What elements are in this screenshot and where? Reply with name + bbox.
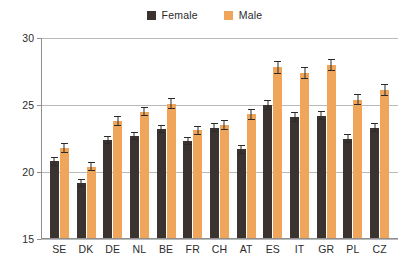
error-bar: [277, 61, 278, 73]
bar-rect: [140, 112, 149, 239]
bar-male-es: [273, 67, 282, 239]
y-tick-mark-15: [37, 239, 41, 240]
error-bar: [294, 112, 295, 121]
bar-rect: [237, 149, 246, 239]
bar-group-se: [46, 38, 73, 239]
x-tick-label-gr: GR: [313, 243, 340, 255]
square-swatch-icon: [147, 11, 156, 20]
x-tick-label-it: IT: [286, 243, 313, 255]
bar-rect: [167, 104, 176, 239]
bar-male-it: [300, 73, 309, 239]
bar-rect: [157, 129, 166, 239]
x-axis-labels: SEDKDENLBEFRCHATESITGRPLCZ: [41, 243, 398, 255]
bar-male-se: [60, 148, 69, 239]
bar-female-dk: [77, 183, 86, 239]
error-bar: [81, 179, 82, 187]
bar-rect: [317, 116, 326, 239]
bar-rect: [60, 148, 69, 239]
x-tick-label-se: SE: [46, 243, 73, 255]
x-tick-label-ch: CH: [206, 243, 233, 255]
bar-group-ch: [206, 38, 233, 239]
legend-item-male: Male: [224, 9, 263, 21]
bar-male-be: [167, 104, 176, 239]
bar-male-de: [113, 121, 122, 239]
x-tick-label-nl: NL: [126, 243, 153, 255]
bar-rect: [247, 114, 256, 239]
bar-female-gr: [317, 116, 326, 239]
bar-group-dk: [73, 38, 100, 239]
bar-group-be: [153, 38, 180, 239]
error-bar: [331, 59, 332, 71]
bar-female-fr: [183, 141, 192, 239]
bar-male-gr: [327, 65, 336, 239]
error-bar: [251, 109, 252, 120]
bar-rect: [300, 73, 309, 239]
bar-rect: [50, 161, 59, 239]
bar-female-ch: [210, 128, 219, 239]
error-bar: [107, 136, 108, 144]
error-bar: [91, 162, 92, 171]
error-bar: [321, 111, 322, 120]
bar-male-fr: [193, 130, 202, 239]
bar-male-dk: [87, 167, 96, 239]
bar-group-at: [233, 38, 260, 239]
bar-male-at: [247, 114, 256, 239]
bar-group-it: [286, 38, 313, 239]
bar-rect: [210, 128, 219, 239]
y-tick-mark-30: [37, 38, 41, 39]
bar-rect: [77, 183, 86, 239]
legend-label-male: Male: [239, 9, 263, 21]
bar-female-pl: [343, 139, 352, 240]
plot-area: 15202530: [41, 38, 398, 239]
error-bar: [384, 84, 385, 96]
bar-female-it: [290, 117, 299, 239]
bar-rect: [103, 140, 112, 239]
bar-rect: [130, 136, 139, 239]
bar-rect: [353, 100, 362, 239]
bar-rect: [263, 105, 272, 239]
bar-rect: [370, 128, 379, 239]
error-bar: [347, 134, 348, 143]
bar-rect: [343, 139, 352, 240]
bar-male-nl: [140, 112, 149, 239]
error-bar: [171, 98, 172, 109]
error-bar: [374, 123, 375, 132]
error-bar: [224, 120, 225, 131]
bar-female-cz: [370, 128, 379, 239]
error-bar: [197, 126, 198, 135]
bar-female-at: [237, 149, 246, 239]
y-tick-label-25: 25: [22, 99, 34, 111]
bar-female-be: [157, 129, 166, 239]
y-axis-line: [41, 38, 42, 239]
legend-label-female: Female: [162, 9, 198, 21]
legend-item-female: Female: [147, 9, 198, 21]
bar-rect: [183, 141, 192, 239]
bar-rect: [220, 125, 229, 239]
bar-group-de: [99, 38, 126, 239]
bar-female-es: [263, 105, 272, 239]
x-tick-label-de: DE: [99, 243, 126, 255]
bar-rect: [193, 130, 202, 239]
bar-male-ch: [220, 125, 229, 239]
y-tick-label-20: 20: [22, 166, 34, 178]
chart-legend: Female Male: [0, 9, 409, 21]
error-bar: [64, 143, 65, 154]
error-bar: [161, 125, 162, 133]
bar-group-nl: [126, 38, 153, 239]
bar-group-es: [260, 38, 287, 239]
x-tick-label-fr: FR: [179, 243, 206, 255]
x-tick-label-at: AT: [233, 243, 260, 255]
error-bar: [241, 145, 242, 154]
y-tick-label-15: 15: [22, 233, 34, 245]
error-bar: [134, 132, 135, 140]
bar-series-container: [41, 38, 398, 239]
bar-male-pl: [353, 100, 362, 239]
bar-rect: [380, 90, 389, 239]
bar-female-nl: [130, 136, 139, 239]
bar-female-se: [50, 161, 59, 239]
error-bar: [214, 123, 215, 132]
gridline-15: [41, 239, 398, 240]
error-bar: [54, 157, 55, 166]
x-axis-line: [41, 238, 398, 239]
x-tick-label-be: BE: [153, 243, 180, 255]
